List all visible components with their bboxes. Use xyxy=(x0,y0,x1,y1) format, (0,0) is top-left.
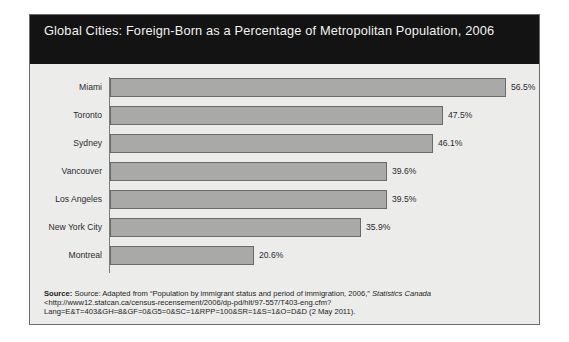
bar-value-label: 39.5% xyxy=(392,189,416,210)
bar-row: Vancouver39.6% xyxy=(30,161,539,182)
bar-category-label: Los Angeles xyxy=(30,189,102,210)
bar-row: Los Angeles39.5% xyxy=(30,189,539,210)
bar-category-label: Montreal xyxy=(30,245,102,266)
bar-value-label: 47.5% xyxy=(448,105,472,126)
bar xyxy=(110,246,254,265)
bar xyxy=(110,190,387,209)
source-label: Source: xyxy=(44,289,72,298)
bar xyxy=(110,106,443,125)
bar-value-label: 35.9% xyxy=(366,217,390,238)
bar-row: Toronto47.5% xyxy=(30,105,539,126)
bar-category-label: Vancouver xyxy=(30,161,102,182)
source-publisher: Statistics Canada xyxy=(372,289,431,298)
bar-category-label: Toronto xyxy=(30,105,102,126)
bar-category-label: New York City xyxy=(30,217,102,238)
bar-row: Montreal20.6% xyxy=(30,245,539,266)
bar xyxy=(110,78,506,97)
bar-chart: Miami56.5%Toronto47.5%Sydney46.1%Vancouv… xyxy=(30,64,539,282)
source-note: Source: Source: Adapted from “Population… xyxy=(44,289,527,316)
chart-title-band: Global Cities: Foreign-Born as a Percent… xyxy=(30,15,539,64)
bar-value-label: 39.6% xyxy=(392,161,416,182)
bar xyxy=(110,162,387,181)
bar xyxy=(110,218,361,237)
bar-row: New York City35.9% xyxy=(30,217,539,238)
bar-category-label: Miami xyxy=(30,77,102,98)
bar-value-label: 46.1% xyxy=(438,133,462,154)
bar xyxy=(110,134,433,153)
bar-row: Miami56.5% xyxy=(30,77,539,98)
figure-frame: Global Cities: Foreign-Born as a Percent… xyxy=(29,14,540,325)
bar-category-label: Sydney xyxy=(30,133,102,154)
page-title: Global Cities: Foreign-Born as a Percent… xyxy=(44,22,525,39)
source-body-first: Source: Adapted from “Population by immi… xyxy=(72,289,372,298)
source-body-second: <http://www12.statcan.ca/census-recensem… xyxy=(44,298,355,316)
bar-row: Sydney46.1% xyxy=(30,133,539,154)
bar-value-label: 56.5% xyxy=(511,77,535,98)
source-note-text: Source: Source: Adapted from “Population… xyxy=(44,289,527,316)
chart-plot-region: Miami56.5%Toronto47.5%Sydney46.1%Vancouv… xyxy=(30,64,539,324)
bar-value-label: 20.6% xyxy=(259,245,283,266)
